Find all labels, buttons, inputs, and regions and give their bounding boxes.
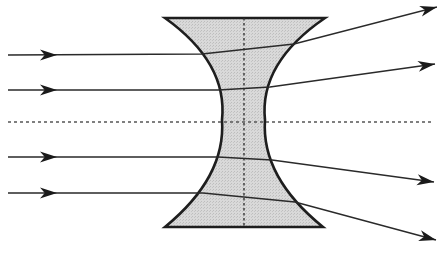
lens-diagram	[0, 0, 437, 257]
diagram-canvas	[0, 0, 437, 257]
